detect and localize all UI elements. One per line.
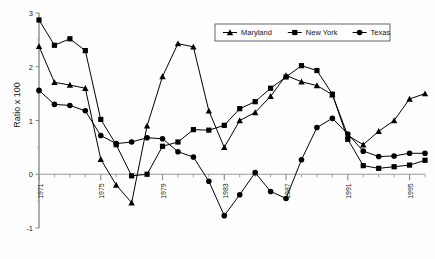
data-point (392, 164, 397, 169)
series-texas (36, 88, 428, 219)
data-point (375, 128, 381, 134)
legend-label: New York (306, 28, 338, 37)
data-point (299, 157, 305, 163)
data-point (422, 90, 428, 96)
data-point (314, 125, 320, 131)
data-point (376, 154, 382, 160)
chart-container: Ratio x 100 3210-11971197519791983198719… (0, 0, 435, 259)
x-tick-label: 1971 (37, 183, 44, 199)
data-point (113, 182, 119, 188)
data-point (407, 150, 413, 156)
data-point (237, 117, 243, 123)
data-point (298, 79, 304, 85)
y-tick-label: -1 (26, 224, 33, 233)
data-point (36, 43, 42, 49)
data-point (175, 40, 181, 46)
data-point (206, 178, 212, 184)
data-point (222, 123, 227, 128)
legend-marker-circle (357, 30, 363, 36)
x-tick-label: 1991 (345, 183, 352, 199)
data-point (406, 96, 412, 102)
data-point (206, 128, 211, 133)
legend-label: Texas (371, 28, 391, 37)
data-point (113, 141, 119, 147)
data-point (345, 131, 351, 137)
plot-area: 3210-11971197519791983198719911995 (26, 9, 428, 233)
legend: MarylandNew YorkTexas (215, 24, 390, 41)
data-point (345, 137, 350, 142)
data-point (422, 150, 428, 156)
data-point (160, 144, 165, 149)
data-point (129, 173, 134, 178)
data-point (407, 163, 412, 168)
data-point (361, 163, 366, 168)
data-point (175, 139, 180, 144)
data-point (330, 116, 336, 122)
y-tick-label: 3 (29, 9, 33, 18)
data-point (252, 170, 258, 176)
data-point (191, 154, 197, 160)
legend-label: Maryland (241, 28, 272, 37)
data-point (314, 68, 319, 73)
data-point (83, 108, 89, 114)
series-line (39, 44, 425, 203)
data-point (160, 136, 166, 142)
data-point (391, 153, 397, 159)
data-point (98, 133, 104, 139)
data-point (237, 106, 242, 111)
x-tick-label: 1975 (98, 183, 105, 199)
data-point (36, 88, 42, 94)
data-point (51, 79, 57, 85)
line-chart: Ratio x 100 3210-11971197519791983198719… (0, 0, 435, 259)
y-tick-label: 0 (29, 170, 33, 179)
data-point (67, 103, 73, 109)
data-point (36, 17, 41, 22)
data-point (144, 123, 150, 129)
data-point (175, 149, 181, 155)
data-point (98, 156, 104, 162)
data-point (191, 127, 196, 132)
data-point (98, 117, 103, 122)
data-point (283, 196, 289, 202)
data-point (299, 63, 304, 68)
data-point (67, 36, 72, 41)
data-point (144, 172, 149, 177)
series-line (39, 90, 425, 215)
data-point (144, 135, 150, 141)
y-tick-label: 1 (29, 117, 33, 126)
data-point (237, 192, 243, 198)
x-tick-label: 1983 (222, 183, 229, 199)
data-point (129, 139, 135, 145)
series-maryland (36, 40, 428, 205)
data-point (221, 213, 227, 219)
data-point (52, 102, 58, 108)
data-point (83, 48, 88, 53)
data-point (283, 74, 288, 79)
legend-marker-square (292, 30, 297, 35)
y-axis-title: Ratio x 100 (12, 82, 22, 128)
data-point (253, 99, 258, 104)
series-new-york (36, 17, 427, 178)
data-point (422, 158, 427, 163)
x-tick-label: 1979 (160, 183, 167, 199)
data-point (206, 108, 212, 114)
y-tick-label: 2 (29, 63, 33, 72)
data-point (330, 92, 335, 97)
x-tick-label: 1995 (407, 183, 414, 199)
data-point (221, 144, 227, 150)
data-point (159, 73, 165, 79)
data-point (360, 148, 366, 154)
data-point (268, 189, 274, 195)
data-point (52, 43, 57, 48)
data-point (268, 86, 273, 91)
data-point (376, 166, 381, 171)
